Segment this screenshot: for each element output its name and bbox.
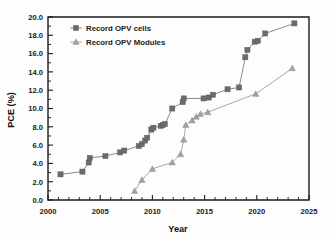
square-marker-icon	[73, 25, 78, 30]
x-tick-label: 2015	[196, 207, 214, 216]
data-point-square	[236, 85, 241, 90]
data-point-square	[162, 121, 167, 126]
data-point-square	[245, 47, 250, 52]
data-point-square	[263, 31, 268, 36]
y-tick-label: 18.0	[28, 31, 43, 40]
y-tick-label: 6.0	[32, 141, 43, 150]
y-tick-label: 16.0	[28, 49, 43, 58]
y-tick-label: 20.0	[28, 13, 43, 22]
data-point-square	[87, 155, 92, 160]
data-point-square	[225, 87, 230, 92]
data-point-square	[170, 106, 175, 111]
y-tick-label: 10.0	[28, 104, 43, 113]
data-point-square	[201, 96, 206, 101]
data-point-square	[181, 96, 186, 101]
chart-figure: 200020052010201520202025 0.02.04.06.08.0…	[0, 0, 330, 238]
data-point-square	[103, 153, 108, 158]
data-point-square	[255, 38, 260, 43]
x-axis-title: Year	[168, 224, 188, 234]
data-point-square	[122, 148, 127, 153]
y-tick-label: 14.0	[28, 68, 43, 77]
legend-label: Record OPV cells	[86, 24, 152, 33]
y-tick-label: 0.0	[32, 196, 43, 205]
y-tick-label: 12.0	[28, 86, 43, 95]
x-tick-label: 2000	[40, 207, 57, 216]
x-tick-label: 2025	[301, 207, 319, 216]
data-point-square	[292, 21, 297, 26]
data-point-square	[80, 169, 85, 174]
data-point-square	[145, 135, 150, 140]
y-tick-label: 2.0	[32, 178, 43, 187]
y-tick-label: 4.0	[32, 159, 43, 168]
data-point-square	[151, 125, 156, 130]
y-tick-label: 8.0	[32, 123, 43, 132]
y-axis-title: PCE (%)	[6, 92, 16, 128]
x-tick-label: 2010	[144, 207, 161, 216]
x-tick-label: 2005	[92, 207, 110, 216]
data-point-square	[243, 55, 248, 60]
data-point-square	[58, 172, 63, 177]
chart-canvas: 200020052010201520202025 0.02.04.06.08.0…	[0, 0, 330, 238]
legend-label: Record OPV Modules	[86, 38, 166, 47]
data-point-square	[210, 92, 215, 97]
x-tick-label: 2020	[248, 207, 265, 216]
